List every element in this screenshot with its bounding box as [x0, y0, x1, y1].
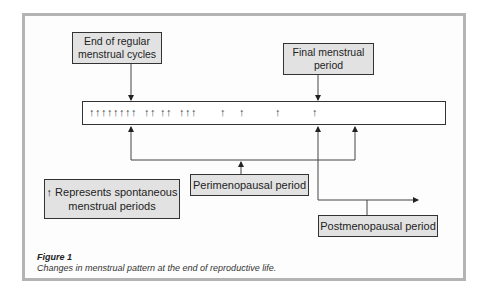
menstrual-period-arrow-icon: ↑ — [166, 104, 172, 120]
menstrual-period-arrow-icon: ↑ — [113, 104, 119, 120]
final-menstrual-period-label: Final menstrual period — [293, 46, 365, 72]
menstrual-period-arrow-icon: ↑ — [89, 104, 95, 120]
menstrual-period-arrow-icon: ↑ — [101, 104, 107, 120]
postmenopausal-period-box: Postmenopausal period — [318, 215, 438, 237]
figure-title: Figure 1 — [37, 252, 72, 262]
perimenopausal-period-box: Perimenopausal period — [190, 174, 309, 196]
menstrual-period-arrow-icon: ↑ — [107, 104, 113, 120]
menstrual-period-arrow-icon: ↑ — [144, 104, 150, 120]
menstrual-period-arrow-icon: ↑ — [179, 104, 185, 120]
menstrual-period-arrow-icon: ↑ — [119, 104, 125, 120]
final-menstrual-period-box: Final menstrual period — [283, 43, 374, 75]
figure-caption: Changes in menstrual pattern at the end … — [37, 263, 276, 273]
legend-label: ↑ Represents spontaneous menstrual perio… — [47, 185, 178, 213]
menstrual-period-arrow-icon: ↑ — [185, 104, 191, 120]
menstrual-period-arrow-icon: ↑ — [95, 104, 101, 120]
perimenopausal-period-label: Perimenopausal period — [193, 179, 306, 192]
menstrual-period-arrow-icon: ↑ — [239, 104, 245, 120]
menstrual-period-arrow-icon: ↑ — [150, 104, 156, 120]
end-regular-cycles-label: End of regular menstrual cycles — [78, 35, 156, 61]
menstrual-period-arrow-icon: ↑ — [312, 104, 318, 120]
end-regular-cycles-box: End of regular menstrual cycles — [72, 32, 162, 64]
menstrual-period-arrow-icon: ↑ — [275, 104, 281, 120]
postmenopausal-period-label: Postmenopausal period — [320, 220, 436, 233]
menstrual-period-arrow-icon: ↑ — [131, 104, 137, 120]
menstrual-period-arrow-icon: ↑ — [125, 104, 131, 120]
menstrual-period-arrow-icon: ↑ — [160, 104, 166, 120]
legend-box: ↑ Represents spontaneous menstrual perio… — [44, 179, 180, 219]
menstrual-period-arrow-icon: ↑ — [220, 104, 226, 120]
menstrual-period-arrow-icon: ↑ — [191, 104, 197, 120]
menstrual-timeline-band — [82, 101, 446, 125]
